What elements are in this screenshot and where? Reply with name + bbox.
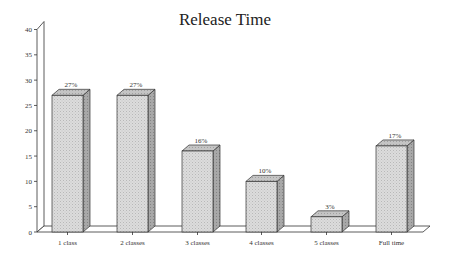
data-label: 17% <box>389 132 402 140</box>
data-label: 16% <box>195 137 208 145</box>
bar-top <box>376 140 414 146</box>
bar-side <box>213 145 220 232</box>
bar-top <box>117 89 155 95</box>
bar-3-classes <box>182 145 220 232</box>
y-tick-label: 25 <box>25 102 33 110</box>
bar-front <box>311 217 342 232</box>
bar-top <box>182 145 220 151</box>
bars <box>52 89 414 232</box>
x-tick-label: 4 classes <box>249 239 274 247</box>
bar-side <box>148 89 155 232</box>
y-tick-label: 15 <box>25 153 33 161</box>
plot-area: 0510152025303540 27%1 class27%2 classes1… <box>0 0 450 258</box>
data-label: 10% <box>259 167 272 175</box>
bar-top <box>311 211 349 217</box>
bar-2-classes <box>117 89 155 232</box>
bar-top <box>246 175 284 181</box>
bar-top <box>52 89 90 95</box>
data-label: 3% <box>325 203 335 211</box>
bar-side <box>83 89 90 232</box>
bar-1-class <box>52 89 90 232</box>
floor <box>37 226 430 232</box>
bar-front <box>246 181 277 232</box>
bar-side <box>407 140 414 232</box>
y-tick-label: 0 <box>29 229 33 237</box>
chart: Release Time 0510152025303540 27%1 class… <box>0 0 450 258</box>
x-tick-label: 2 classes <box>120 239 145 247</box>
bar-front <box>52 95 83 232</box>
bar-side <box>277 175 284 232</box>
x-tick-label: Full time <box>379 239 404 247</box>
y-tick-label: 35 <box>25 51 33 59</box>
chart-title: Release Time <box>0 10 450 30</box>
data-label: 27% <box>130 81 143 89</box>
bar-4-classes <box>246 175 284 232</box>
bar-full-time <box>376 140 414 232</box>
y-tick-label: 10 <box>25 178 33 186</box>
y-tick-label: 5 <box>29 203 33 211</box>
x-tick-label: 1 class <box>58 239 77 247</box>
bar-5-classes <box>311 211 349 232</box>
y-axis-wall <box>37 22 44 233</box>
data-label: 27% <box>65 81 78 89</box>
labels: 27%1 class27%2 classes16%3 classes10%4 c… <box>58 81 404 247</box>
bar-front <box>376 146 407 232</box>
x-tick-label: 3 classes <box>185 239 210 247</box>
bar-front <box>182 151 213 232</box>
y-tick-label: 20 <box>25 127 33 135</box>
bar-front <box>117 95 148 232</box>
y-tick-label: 30 <box>25 77 33 85</box>
x-tick-label: 5 classes <box>314 239 339 247</box>
